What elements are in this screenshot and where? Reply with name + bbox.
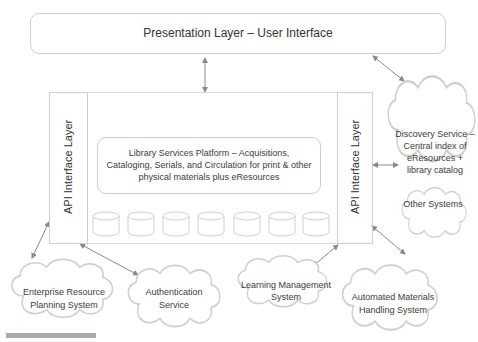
cloud-discovery-label: Discovery Service – Central index of eRe…: [394, 128, 476, 176]
cloud-lms-label: Learning Management System: [238, 279, 334, 303]
platform-label: Library Services Platform – Acquisitions…: [105, 147, 313, 183]
cloud-auth-label: Authentication Service: [138, 286, 210, 312]
cloud-other-label: Other Systems: [403, 198, 463, 210]
presentation-layer-label: Presentation Layer – User Interface: [30, 26, 446, 40]
cloud-amh-label: Automated Materials Handling System: [345, 291, 441, 317]
cloud-erp-label: Enterprise Resource Planning System: [16, 286, 112, 312]
api-right-label: API Interface Layer: [339, 92, 372, 242]
api-left-label: API Interface Layer: [52, 92, 85, 242]
cropped-caption: [6, 333, 96, 338]
